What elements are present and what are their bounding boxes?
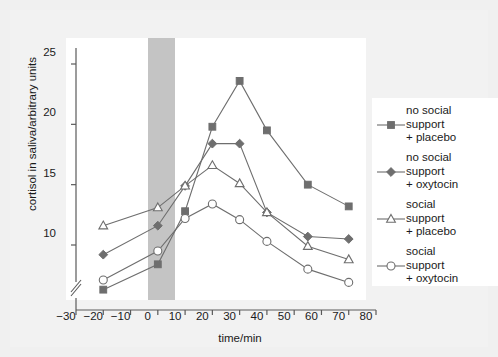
data-point-open-circle (263, 237, 271, 245)
legend-marker-open-circle-icon (376, 258, 406, 270)
legend-marker-svg (376, 166, 406, 178)
legend-entry: no social support + placebo (376, 104, 496, 145)
data-point-filled-square (236, 77, 243, 84)
legend-label: social support + placebo (406, 198, 456, 239)
x-tick-label: 80 (351, 310, 381, 322)
data-point-open-circle (99, 276, 107, 284)
chart-legend: no social support + placebono social sup… (372, 98, 498, 286)
legend-label: social support + oxytocin (406, 245, 458, 286)
series-line (103, 144, 348, 255)
legend-marker-filled-diamond-icon (376, 164, 406, 176)
data-point-filled-square (154, 261, 161, 268)
legend-label: no social support + placebo (406, 104, 456, 145)
data-point-filled-diamond (344, 235, 353, 244)
data-point-open-circle (345, 278, 353, 286)
data-point-open-circle (304, 265, 312, 273)
y-tick-label: 20 (30, 106, 56, 118)
data-point-open-triangle (303, 242, 312, 250)
data-point-open-triangle (387, 214, 396, 222)
y-axis-label: cortisol in saliva/arbitrary units (26, 34, 38, 234)
data-point-filled-square (345, 203, 352, 210)
figure-container: cortisol in saliva/arbitrary units time/… (0, 0, 498, 357)
data-point-filled-diamond (235, 139, 244, 148)
x-tick-label: 10 (160, 310, 190, 322)
data-point-filled-square (388, 122, 395, 129)
series-line (103, 81, 348, 290)
data-point-open-triangle (208, 161, 217, 169)
data-point-filled-square (182, 208, 189, 215)
legend-marker-open-triangle-icon (376, 211, 406, 223)
figure-inner-panel: cortisol in saliva/arbitrary units time/… (10, 10, 488, 347)
data-point-open-circle (154, 247, 162, 255)
data-point-open-circle (181, 214, 189, 222)
data-point-open-circle (387, 262, 395, 270)
legend-entry: no social support + oxytocin (376, 151, 496, 192)
data-point-filled-square (209, 123, 216, 130)
x-tick-label: 20 (187, 310, 217, 322)
x-tick-label: 60 (296, 310, 326, 322)
x-tick-label: −10 (106, 310, 136, 322)
y-tick-label: 15 (30, 167, 56, 179)
data-point-open-triangle (153, 203, 162, 211)
legend-marker-svg (376, 119, 406, 131)
legend-marker-svg (376, 260, 406, 272)
legend-entry: social support + placebo (376, 198, 496, 239)
x-axis-label: time/min (160, 332, 320, 344)
y-tick-label: 25 (30, 46, 56, 58)
series-1 (99, 139, 353, 259)
data-point-filled-square (100, 286, 107, 293)
data-point-filled-square (304, 181, 311, 188)
x-tick-label: 40 (242, 310, 272, 322)
x-tick-label: 70 (324, 310, 354, 322)
data-point-open-circle (208, 200, 216, 208)
x-tick-label: 30 (215, 310, 245, 322)
series-0 (100, 77, 352, 293)
legend-marker-svg (376, 213, 406, 225)
data-point-filled-diamond (387, 168, 396, 177)
y-tick-label: 10 (30, 227, 56, 239)
data-point-filled-diamond (153, 221, 162, 230)
legend-entry: social support + oxytocin (376, 245, 496, 286)
x-tick-label: 50 (269, 310, 299, 322)
data-point-filled-diamond (208, 139, 217, 148)
data-point-filled-diamond (99, 250, 108, 259)
data-point-open-circle (236, 216, 244, 224)
legend-marker-filled-square-icon (376, 117, 406, 129)
x-tick-label: −30 (51, 310, 81, 322)
legend-label: no social support + oxytocin (406, 151, 458, 192)
data-point-filled-square (264, 127, 271, 134)
x-tick-label: 0 (133, 310, 163, 322)
x-tick-label: −20 (78, 310, 108, 322)
data-point-open-triangle (235, 179, 244, 187)
data-point-filled-diamond (303, 232, 312, 241)
